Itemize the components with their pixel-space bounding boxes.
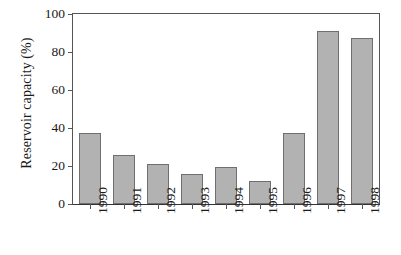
x-tick-mark — [260, 204, 261, 209]
x-tick-mark — [226, 204, 227, 209]
x-tick-label: 1992 — [163, 187, 179, 214]
x-tick-label: 1994 — [231, 187, 247, 214]
x-tick-label: 1998 — [367, 187, 383, 214]
x-tick-mark — [90, 204, 91, 209]
x-tick-label: 1993 — [197, 187, 213, 214]
y-tick-label: 100 — [45, 6, 65, 22]
x-tick-label: 1996 — [299, 187, 315, 214]
bar-chart-figure: Reservoir capacity (%) 02040608010019901… — [0, 0, 401, 255]
bar — [317, 31, 339, 204]
x-tick-label: 1995 — [265, 187, 281, 214]
y-tick-mark — [68, 52, 73, 53]
y-tick-mark — [68, 14, 73, 15]
x-tick-mark — [158, 204, 159, 209]
y-tick-mark — [68, 166, 73, 167]
y-tick-mark — [68, 90, 73, 91]
y-tick-mark — [68, 204, 73, 205]
y-tick-label: 60 — [52, 82, 66, 98]
y-tick-label: 0 — [58, 196, 65, 212]
x-tick-mark — [328, 204, 329, 209]
y-tick-label: 20 — [52, 158, 66, 174]
x-tick-mark — [192, 204, 193, 209]
y-axis-title: Reservoir capacity (%) — [18, 8, 36, 198]
y-tick-mark — [68, 128, 73, 129]
x-tick-mark — [362, 204, 363, 209]
x-tick-mark — [294, 204, 295, 209]
x-tick-mark — [124, 204, 125, 209]
bar — [351, 38, 373, 204]
y-tick-label: 40 — [52, 120, 66, 136]
x-tick-label: 1990 — [95, 187, 111, 214]
x-tick-label: 1991 — [129, 187, 145, 214]
plot-area: 0204060801001990199119921993199419951996… — [72, 13, 380, 205]
x-tick-label: 1997 — [333, 187, 349, 214]
y-tick-label: 80 — [52, 44, 66, 60]
